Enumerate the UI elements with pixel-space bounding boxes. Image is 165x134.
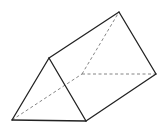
hidden-edges	[12, 12, 156, 120]
solid-edge-FE	[119, 12, 156, 74]
solid-edge-CA	[12, 58, 49, 120]
solid-edge-BC	[49, 58, 86, 121]
solid-edges	[12, 12, 156, 121]
solid-edge-AB	[12, 120, 86, 121]
triangular-prism-diagram	[0, 0, 165, 134]
hidden-edge-DF	[82, 12, 119, 74]
solid-edge-CF	[49, 12, 119, 58]
solid-edge-BE	[86, 74, 156, 121]
